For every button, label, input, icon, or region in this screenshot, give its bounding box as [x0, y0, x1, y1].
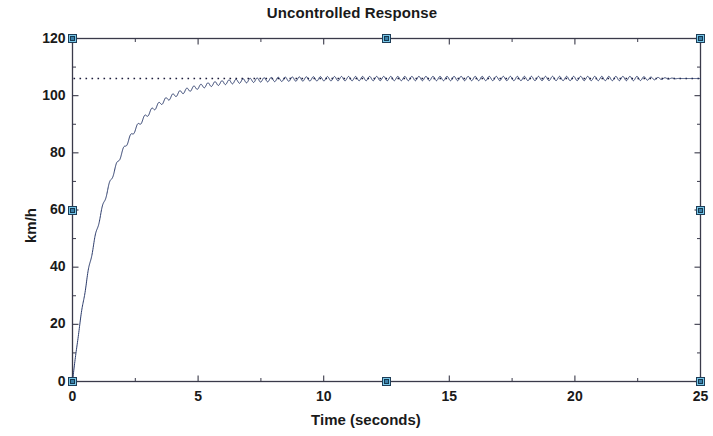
handle-core	[70, 379, 75, 384]
handle-bottom-left[interactable]	[68, 377, 77, 386]
y-tick-label: 80	[50, 144, 66, 160]
y-axis-label[interactable]: km/h	[22, 208, 39, 243]
handle-core	[384, 379, 389, 384]
y-tick-label: 120	[42, 30, 65, 46]
x-tick-label: 15	[409, 388, 489, 404]
response-curve[interactable]	[73, 76, 701, 381]
handle-middle-left[interactable]	[68, 206, 77, 215]
x-axis-label[interactable]: Time (seconds)	[0, 411, 706, 428]
x-tick-label: 0	[33, 388, 113, 404]
handle-bottom-right[interactable]	[696, 377, 705, 386]
handle-top-right[interactable]	[696, 34, 705, 43]
y-tick-label: 60	[50, 201, 66, 217]
x-tick-label: 10	[284, 388, 364, 404]
handle-bottom-center[interactable]	[382, 377, 391, 386]
x-tick-label: 25	[661, 388, 713, 404]
handle-core	[698, 208, 703, 213]
y-tick-label: 0	[58, 373, 66, 389]
handle-core	[698, 379, 703, 384]
axes-box[interactable]	[73, 39, 701, 382]
handle-top-left[interactable]	[68, 34, 77, 43]
x-axis-label-text: Time (seconds)	[311, 411, 421, 428]
x-tick-label: 20	[535, 388, 615, 404]
handle-core	[384, 36, 389, 41]
axis-tick-marks	[73, 39, 701, 382]
handle-top-center[interactable]	[382, 34, 391, 43]
y-tick-label: 20	[50, 315, 66, 331]
handle-middle-right[interactable]	[696, 206, 705, 215]
handle-core	[698, 36, 703, 41]
handle-core	[70, 36, 75, 41]
handle-core	[70, 208, 75, 213]
y-tick-label: 40	[50, 258, 66, 274]
x-tick-label: 5	[158, 388, 238, 404]
y-tick-label: 100	[42, 87, 65, 103]
